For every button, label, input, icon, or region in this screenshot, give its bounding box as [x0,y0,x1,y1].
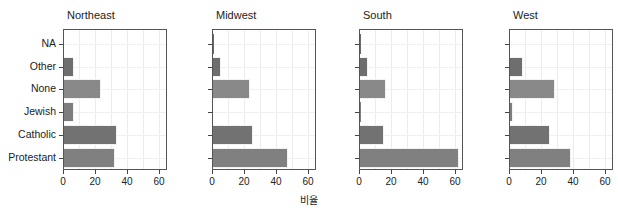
bar-other [510,57,523,77]
y-tick [355,44,359,45]
y-label-jewish: Jewish [24,105,56,117]
x-tick-label: 60 [440,176,470,187]
y-tick [208,89,212,90]
y-tick [355,67,359,68]
y-tick [355,89,359,90]
y-tick [59,89,63,90]
gridline-horizontal [64,112,166,113]
gridline-vertical [143,30,144,169]
x-tick [159,170,160,174]
plot-area [509,29,613,170]
x-tick [509,170,510,174]
gridline-vertical [605,30,606,169]
gridline-vertical [127,30,128,169]
y-tick [208,135,212,136]
bar-none [510,79,555,99]
x-tick-label: 40 [558,176,588,187]
bar-catholic [510,125,550,145]
y-label-na: NA [41,37,56,49]
y-tick [208,44,212,45]
x-tick-label: 60 [293,176,323,187]
y-tick [59,67,63,68]
bar-jewish [64,102,74,122]
bar-jewish [510,102,513,122]
bar-protestant [360,148,459,168]
bar-none [213,79,250,99]
y-tick [59,44,63,45]
x-tick [212,170,213,174]
x-tick [359,170,360,174]
bar-na [213,34,214,54]
bar-other [64,57,74,77]
x-tick-label: 0 [494,176,524,187]
y-tick [355,112,359,113]
plot-area [212,29,316,170]
y-tick [505,158,509,159]
panel-title: West [513,9,538,21]
bar-protestant [213,148,288,168]
y-label-protestant: Protestant [8,151,56,163]
x-tick-label: 60 [144,176,174,187]
x-tick-label: 0 [48,176,78,187]
gridline-horizontal [64,44,166,45]
gridline-horizontal [213,44,315,45]
x-tick-label: 60 [590,176,618,187]
plot-area [63,29,167,170]
bar-protestant [64,148,115,168]
gridline-vertical [292,30,293,169]
y-tick [59,112,63,113]
x-tick [605,170,606,174]
x-tick-label: 40 [408,176,438,187]
gridline-horizontal [510,67,612,68]
x-tick [308,170,309,174]
y-label-catholic: Catholic [18,128,56,140]
panel-title: Midwest [216,9,256,21]
gridline-horizontal [510,44,612,45]
x-tick [127,170,128,174]
y-tick [59,135,63,136]
x-tick-label: 40 [261,176,291,187]
y-tick [208,67,212,68]
x-tick [423,170,424,174]
gridline-horizontal [360,112,462,113]
x-tick [244,170,245,174]
x-tick [391,170,392,174]
panel-title: Northeast [67,9,115,21]
y-tick [505,44,509,45]
x-tick-label: 0 [197,176,227,187]
gridline-vertical [589,30,590,169]
gridline-vertical [573,30,574,169]
x-tick-label: 20 [229,176,259,187]
gridline-horizontal [213,112,315,113]
bar-other [360,57,368,77]
y-tick [355,135,359,136]
gridline-horizontal [360,67,462,68]
bar-catholic [360,125,384,145]
y-label-other: Other [30,60,56,72]
gridline-horizontal [213,67,315,68]
y-tick [505,112,509,113]
x-tick-label: 0 [344,176,374,187]
y-tick [208,112,212,113]
x-tick-label: 40 [112,176,142,187]
gridline-horizontal [360,44,462,45]
x-tick-label: 20 [526,176,556,187]
x-tick-label: 20 [376,176,406,187]
y-label-none: None [31,82,56,94]
x-tick [63,170,64,174]
x-axis-title: 비율 [0,192,618,207]
x-tick [95,170,96,174]
gridline-vertical [159,30,160,169]
y-tick [505,135,509,136]
bar-other [213,57,221,77]
y-tick [208,158,212,159]
y-tick [505,89,509,90]
gridline-horizontal [510,112,612,113]
y-tick [59,158,63,159]
bar-catholic [213,125,253,145]
bar-protestant [510,148,571,168]
bar-none [360,79,386,99]
x-tick [541,170,542,174]
x-tick [573,170,574,174]
bar-na [360,34,361,54]
